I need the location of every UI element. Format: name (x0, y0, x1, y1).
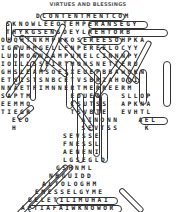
found-word-ring (88, 21, 148, 29)
found-word-ring (101, 93, 108, 163)
found-word-ring (28, 205, 122, 212)
found-word-ring (140, 117, 168, 125)
found-word-ring (163, 61, 171, 107)
found-word-ring (93, 93, 100, 157)
found-word-ring (40, 13, 125, 21)
found-word-ring (80, 37, 122, 45)
found-word-ring (139, 69, 147, 105)
found-word-ring (88, 29, 168, 37)
word-search-grid[interactable]: DCONTENTMENTCOMSKNOWLEEOTEMPERANSEGYTHYK… (0, 0, 176, 212)
found-word-ring (56, 197, 118, 205)
